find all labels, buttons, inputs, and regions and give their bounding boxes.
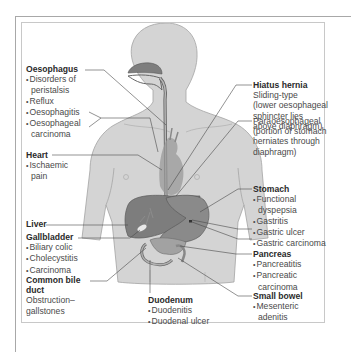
common-bile-duct-title: Common bile [26,275,80,285]
hiatus-sliding-text: Sliding-type [253,90,328,100]
liver-title: Liver [26,219,47,229]
duodenum-item: Duodenitis [148,305,209,316]
label-pancreas: Pancreas Pancreatitis Pancreatic carcino… [253,249,301,292]
gallbladder-item: Cholecystitis [26,253,78,264]
oesophagus-item: Disorders of [26,74,81,85]
hiatus-hernia-title: Hiatus hernia [253,80,328,90]
heart-title: Heart [26,150,68,160]
oesophagus-item: carcinoma [26,129,81,139]
gallbladder-title: Gallbladder [26,232,78,242]
stomach-item: Functional [253,194,326,205]
label-liver: Liver [26,219,47,229]
pancreas-item: Pancreatic [253,270,301,281]
stomach-item: Gastric carcinoma [253,238,326,249]
gallbladder-item: Biliary colic [26,242,78,253]
duodenum-title: Duodenum [148,295,209,305]
label-gallbladder: Gallbladder Biliary colic Cholecystitis … [26,232,78,276]
stomach-item: dyspepsia [253,205,326,215]
pancreas-item: Pancreatitis [253,259,301,270]
paraoesophageal-text: herniates through [253,136,327,146]
stomach-item: Gastric ulcer [253,227,326,238]
label-oesophagus: Oesophagus Disorders of peristalsis Refl… [26,64,81,139]
label-paraoesophageal: Paraoesophageal (portion of stomach hern… [253,116,327,157]
duodenum-item: Duodenal ulcer [148,316,209,327]
label-small-bowel: Small bowel Mesenteric adenitis [253,291,303,323]
common-bile-duct-title: duct [26,285,80,295]
small-bowel-title: Small bowel [253,291,303,301]
common-bile-duct-text: gallstones [26,306,80,316]
common-bile-duct-text: Obstruction– [26,295,80,305]
hiatus-sliding-text: (lower oesophageal [253,100,328,110]
oesophagus-item: peristalsis [26,85,81,95]
small-bowel-item: Mesenteric [253,301,303,312]
paraoesophageal-text: diaphragm) [253,147,327,157]
stomach-title: Stomach [253,184,326,194]
oesophagus-item: Reflux [26,96,81,107]
heart-item: Ischaemic [26,160,68,171]
heart-item: pain [26,171,68,181]
oesophagus-title: Oesophagus [26,64,81,74]
oesophagus-item: Oesophageal [26,118,81,129]
label-common-bile-duct: Common bile duct Obstruction– gallstones [26,275,80,316]
paraoesophageal-text: Paraoesophageal [253,116,327,126]
label-heart: Heart Ischaemic pain [26,150,68,182]
pancreas-title: Pancreas [253,249,301,259]
small-bowel-item: adenitis [253,312,303,322]
label-duodenum: Duodenum Duodenitis Duodenal ulcer [148,295,209,328]
oesophagus-item: Oesophagitis [26,107,81,118]
paraoesophageal-text: (portion of stomach [253,126,327,136]
stomach-item: Gastritis [253,216,326,227]
label-stomach: Stomach Functional dyspepsia Gastritis G… [253,184,326,249]
